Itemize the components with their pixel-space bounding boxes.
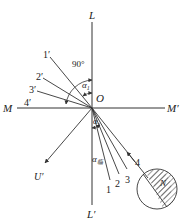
label-M-prime: M′ (166, 102, 179, 114)
refraction-diagram: L L′ M M′ O 1′ 2′ 3′ 4′ 90° α1 U′ 1 2 3 … (0, 0, 185, 223)
label-3-prime: 3′ (29, 84, 36, 95)
label-medium-N: N (159, 178, 167, 188)
label-L: L (88, 9, 95, 21)
label-3: 3 (125, 174, 130, 185)
label-1-prime: 1′ (43, 49, 50, 60)
label-U-prime: U′ (34, 171, 44, 182)
ray-3-prime (37, 91, 92, 108)
arc-alpha1 (83, 93, 92, 96)
label-alpha-critical: α临 (92, 154, 104, 165)
label-O: O (96, 92, 104, 104)
label-M: M (2, 102, 13, 114)
label-1: 1 (106, 184, 111, 195)
label-4: 4 (135, 157, 140, 168)
label-alpha2: α2 (93, 117, 100, 127)
label-4-prime: 4′ (24, 97, 31, 108)
label-2: 2 (115, 178, 120, 189)
ray-U-prime (45, 108, 92, 163)
label-90-degree: 90° (72, 59, 85, 69)
label-alpha1: α1 (82, 80, 90, 91)
label-2-prime: 2′ (36, 71, 43, 82)
medium-circle (137, 169, 185, 215)
label-L-prime: L′ (86, 208, 96, 220)
ray-4-arrow (127, 152, 135, 162)
